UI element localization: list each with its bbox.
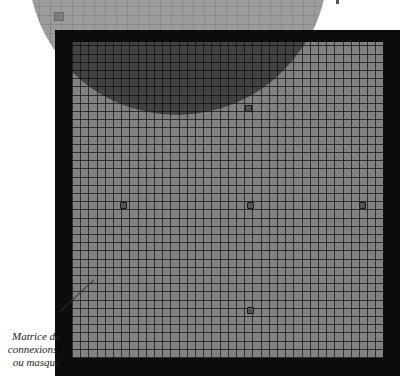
caption-line: connexions, (0, 343, 60, 356)
alignment-mark (359, 202, 366, 209)
alignment-mark (247, 202, 254, 209)
figure-caption: Matrice de connexions, ou masque (0, 330, 60, 369)
alignment-mark (245, 105, 252, 112)
connection-mask: 64161 RCALUMINIUM (55, 30, 400, 376)
figure: 64161 RCALUMINIUM Matrice de connexions,… (0, 0, 409, 380)
wafer-overlap-shadow (72, 42, 327, 115)
corner-tick (336, 0, 339, 4)
caption-line: ou masque (0, 356, 60, 369)
wafer-die-marker (54, 12, 64, 21)
mask-die-grid (72, 42, 383, 358)
alignment-mark (247, 307, 254, 314)
caption-line: Matrice de (0, 330, 60, 343)
alignment-mark (120, 202, 127, 209)
